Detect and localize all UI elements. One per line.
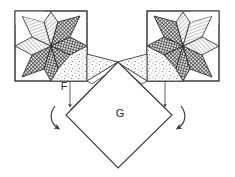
right-star-block xyxy=(147,11,219,81)
left-star-block xyxy=(15,11,87,81)
label-F: F xyxy=(61,80,68,92)
quilting-assembly-diagram: F G xyxy=(0,0,235,177)
label-G: G xyxy=(116,107,125,119)
right-fold-arrow xyxy=(178,106,185,128)
left-fold-arrow xyxy=(51,106,58,128)
figure-canvas: F G xyxy=(0,0,235,177)
